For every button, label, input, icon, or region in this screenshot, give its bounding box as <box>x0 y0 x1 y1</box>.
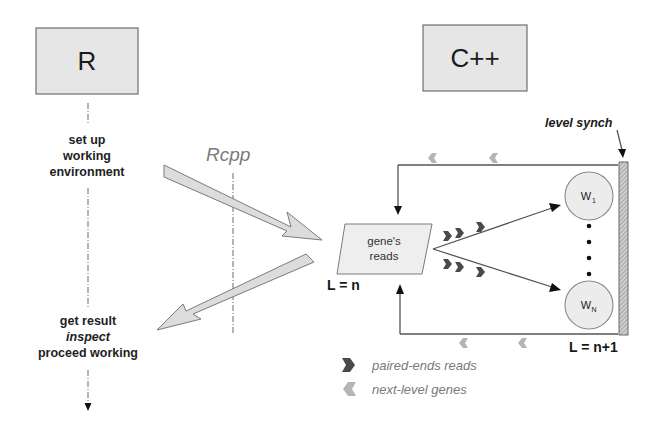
cpp-language-box: C++ <box>423 25 527 91</box>
chevron-right-icon <box>476 267 485 277</box>
r-title: R <box>78 46 97 76</box>
chevron-right-icon <box>476 222 485 232</box>
chevron-right-icon <box>342 358 355 372</box>
svg-text:working: working <box>62 149 111 163</box>
chevron-right-icon <box>443 259 452 269</box>
lifeline-arrowhead-icon <box>85 403 92 411</box>
genes-reads-box: gene's reads <box>337 224 432 274</box>
chevron-left-icon <box>459 338 468 348</box>
chevron-right-icon <box>455 262 464 272</box>
svg-text:W: W <box>581 190 592 202</box>
step-result-text: get result inspect proceed working <box>38 314 138 360</box>
svg-text:inspect: inspect <box>66 330 111 344</box>
legend: paired-ends reads next-level genes <box>342 358 477 397</box>
svg-text:W: W <box>581 299 592 311</box>
svg-text:paired-ends reads: paired-ends reads <box>371 358 477 373</box>
svg-text:reads: reads <box>370 250 399 262</box>
level-n-label: L = n <box>327 277 360 293</box>
svg-text:set up: set up <box>69 133 106 147</box>
level-n-plus-1-label: L = n+1 <box>569 339 618 355</box>
r-language-box: R <box>36 28 138 94</box>
r-cpp-workflow-diagram: R C++ set up working environment get res… <box>0 0 664 433</box>
worker-n: W N <box>565 281 613 329</box>
chevron-right-icon <box>455 228 464 238</box>
svg-text:next-level genes: next-level genes <box>372 382 467 397</box>
worker-ellipsis <box>587 224 592 277</box>
legend-item-paired-ends: paired-ends reads <box>342 358 477 373</box>
chevron-left-icon <box>343 382 356 396</box>
chevron-left-icon <box>428 153 437 163</box>
worker-1: W 1 <box>565 172 613 220</box>
svg-text:N: N <box>591 306 596 313</box>
svg-text:1: 1 <box>592 197 596 204</box>
svg-text:environment: environment <box>49 165 125 179</box>
chevron-right-icon <box>443 231 452 241</box>
step-setup-text: set up working environment <box>49 133 125 179</box>
dispatch-arrows <box>433 203 561 292</box>
svg-text:get result: get result <box>60 314 117 328</box>
svg-text:proceed working: proceed working <box>38 346 138 360</box>
chevron-left-icon <box>489 153 498 163</box>
svg-text:gene's: gene's <box>367 235 401 247</box>
legend-item-next-level: next-level genes <box>343 382 467 397</box>
return-arrow-icon <box>157 254 314 330</box>
chevron-left-icon <box>518 338 527 348</box>
level-synch-label: level synch <box>545 116 613 130</box>
rcpp-label: Rcpp <box>206 144 250 165</box>
call-arrow-icon <box>164 165 322 240</box>
cpp-title: C++ <box>450 43 499 73</box>
